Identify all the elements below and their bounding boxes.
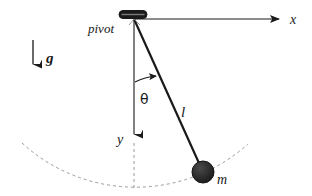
theta-angle-arc <box>135 76 156 82</box>
gravity-label: g <box>45 50 54 66</box>
x-axis-label: x <box>289 12 297 27</box>
pivot-label: pivot <box>87 21 114 36</box>
length-label: l <box>181 104 185 120</box>
swing-path-arc <box>22 143 248 187</box>
pendulum-figure-canvas: pivot g x y θ l m <box>0 0 312 196</box>
y-axis-label: y <box>115 132 124 147</box>
pendulum-bob <box>192 161 214 183</box>
theta-label: θ <box>140 91 149 107</box>
mass-label: m <box>217 172 227 187</box>
pendulum-diagram: pivot g x y θ l m <box>0 0 312 196</box>
